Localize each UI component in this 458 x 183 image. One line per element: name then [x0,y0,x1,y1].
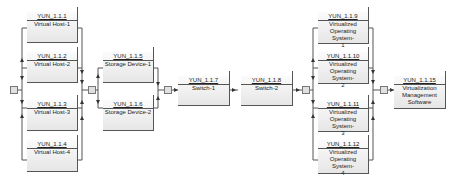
block-label: Virtualized Operating System- 2 [318,61,368,89]
block-id: YUN_1.1.2 [27,52,77,60]
block-switch-1[interactable]: YUN_1.1.7 Switch-1 [178,76,230,106]
block-id: YUN_1.1.8 [241,76,292,84]
block-switch-2[interactable]: YUN_1.1.8 Switch-2 [241,76,293,106]
block-edge [77,7,78,20]
block-virtual-host-3[interactable]: YUN_1.1.3 Virtual Host-3 [27,100,78,131]
block-id: YUN_1.1.5 [103,52,153,60]
junction-os-management [380,86,388,94]
block-label: Storage Device-2 [103,109,153,116]
block-edge [153,47,154,60]
block-id: YUN_1.1.1 [27,12,77,20]
block-label: Virtual Host-3 [27,109,77,116]
block-storage-device-2[interactable]: YUN_1.1.6 Storage Device-2 [103,100,154,131]
block-virtualized-os-3[interactable]: YUN_1.1.11 Virtualized Operating System-… [318,100,369,132]
block-label: Virtualized Operating System- 4 [318,149,368,177]
block-id: YUN_1.1.9 [318,12,368,20]
block-label: Switch-1 [178,85,229,92]
block-storage-device-1[interactable]: YUN_1.1.5 Storage Device-1 [103,52,154,83]
block-edge [368,7,369,20]
block-id: YUN_1.1.12 [318,140,368,148]
block-id: YUN_1.1.10 [318,52,368,60]
block-label: Storage Device-1 [103,61,153,68]
block-edge [153,95,154,108]
block-id: YUN_1.1.3 [27,100,77,108]
junction-hosts-storage [88,86,96,94]
block-virtual-host-2[interactable]: YUN_1.1.2 Virtual Host-2 [27,52,78,83]
block-edge [77,95,78,108]
block-edge [292,71,293,84]
block-id: YUN_1.1.7 [178,76,229,84]
junction-switch-os [302,86,310,94]
block-id: YUN_1.1.6 [103,100,153,108]
block-label: Virtualized Operating System- 1 [318,21,368,49]
start-junction [10,86,18,94]
block-virtual-host-4[interactable]: YUN_1.1.4 Virtual Host-4 [27,140,78,172]
block-edge [77,47,78,60]
block-id: YUN_1.1.15 [394,76,445,84]
block-label: Virtual Host-1 [27,21,77,28]
block-edge [368,47,369,60]
block-id: YUN_1.1.11 [318,100,368,108]
block-label: Switch-2 [241,85,292,92]
block-edge [368,95,369,108]
block-edge [445,71,446,84]
block-label: Virtualized Operating System- 3 [318,109,368,137]
rbd-diagram: YUN_1.1.1 Virtual Host-1 YUN_1.1.2 Virtu… [0,0,458,183]
block-virtualized-os-4[interactable]: YUN_1.1.12 Virtualized Operating System-… [318,140,369,174]
block-virtual-host-1[interactable]: YUN_1.1.1 Virtual Host-1 [27,12,78,43]
block-label: Virtualization Management Software [394,85,445,106]
junction-storage-switch [164,86,172,94]
block-virtualization-management[interactable]: YUN_1.1.15 Virtualization Management Sof… [394,76,446,109]
block-edge [77,135,78,148]
block-label: Virtual Host-2 [27,61,77,68]
block-label: Virtual Host-4 [27,149,77,156]
block-virtualized-os-2[interactable]: YUN_1.1.10 Virtualized Operating System-… [318,52,369,84]
block-id: YUN_1.1.4 [27,140,77,148]
block-virtualized-os-1[interactable]: YUN_1.1.9 Virtualized Operating System- … [318,12,369,44]
block-edge [368,135,369,148]
block-edge [229,71,230,84]
